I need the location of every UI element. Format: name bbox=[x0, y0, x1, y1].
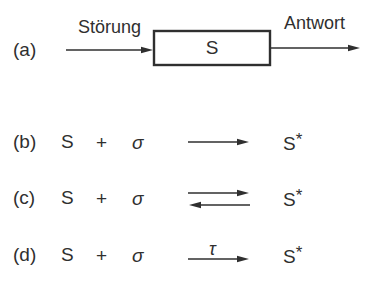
panel-b-plus-sign: + bbox=[96, 133, 107, 152]
panel-c-sigma-symbol: σ bbox=[132, 189, 143, 208]
system-box-label: S bbox=[154, 38, 270, 57]
response-label: Antwort bbox=[284, 14, 345, 32]
panel-c-reactant: S bbox=[61, 188, 74, 207]
panel-c-product: S* bbox=[283, 187, 302, 209]
panel-b-product-base: S bbox=[283, 133, 296, 154]
panel-d-product: S* bbox=[283, 244, 302, 266]
input-arrow bbox=[66, 47, 153, 53]
panel-d-product-asterisk: * bbox=[296, 243, 303, 262]
panel-b-reaction-arrow bbox=[188, 139, 249, 145]
panel-d-reactant: S bbox=[61, 245, 74, 264]
panel-c-reverse-arrow bbox=[189, 202, 250, 208]
panel-c-plus-sign: + bbox=[96, 189, 107, 208]
panel-a-label: (a) bbox=[13, 40, 36, 59]
stimulus-label: Störung bbox=[78, 18, 141, 36]
panel-c-product-asterisk: * bbox=[296, 186, 303, 205]
panel-d-plus-sign: + bbox=[96, 246, 107, 265]
panel-b-product: S* bbox=[283, 131, 302, 153]
reaction-scheme-figure: (a) Störung S Antwort (b) S + σ S* (c) S… bbox=[0, 0, 376, 285]
panel-b-sigma-symbol: σ bbox=[132, 133, 143, 152]
panel-d-label: (d) bbox=[13, 245, 36, 264]
panel-d-tau-arrow-label: τ bbox=[209, 240, 216, 258]
panel-b-label: (b) bbox=[13, 132, 36, 151]
panel-d-reaction-arrow bbox=[188, 256, 249, 262]
panel-c-forward-arrow bbox=[188, 190, 249, 196]
panel-d-product-base: S bbox=[283, 246, 296, 267]
panel-d-sigma-symbol: σ bbox=[132, 246, 143, 265]
panel-c-label: (c) bbox=[13, 188, 35, 207]
panel-b-reactant: S bbox=[61, 132, 74, 151]
panel-c-product-base: S bbox=[283, 189, 296, 210]
panel-b-product-asterisk: * bbox=[296, 130, 303, 149]
output-arrow bbox=[271, 45, 360, 51]
